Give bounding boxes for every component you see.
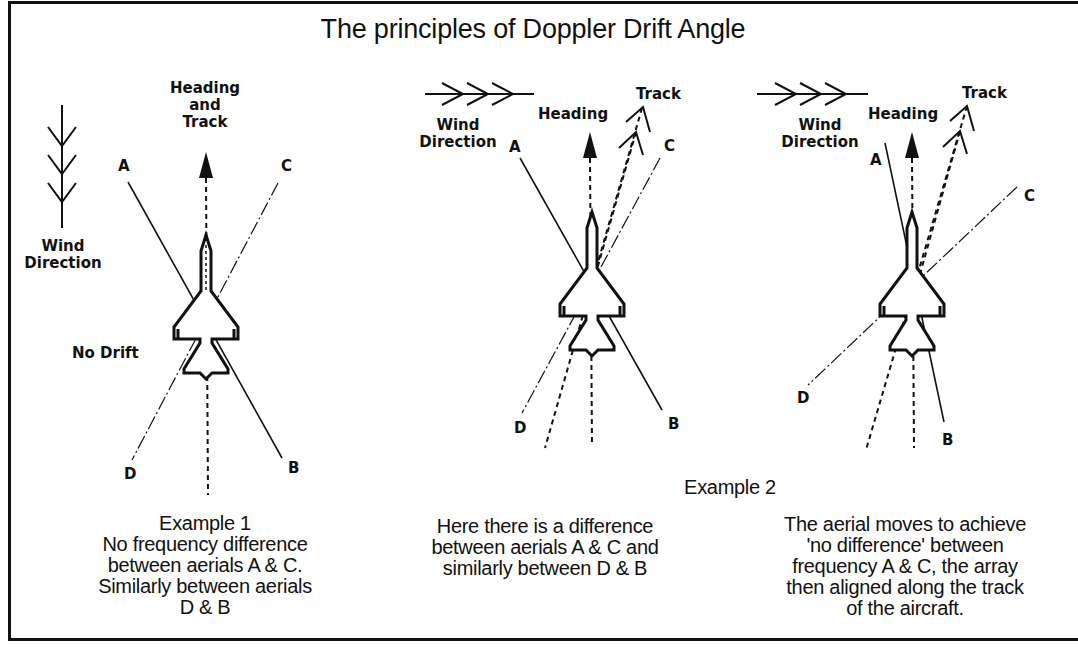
aircraft-icon	[174, 235, 238, 379]
wind-direction-icon	[425, 83, 534, 105]
label-wind-direction: Wind Direction	[780, 117, 860, 151]
caption-example1: No frequency difference between aerials …	[40, 534, 370, 618]
label-heading-and-track: Heading and Track	[160, 80, 250, 131]
aircraft-icon	[560, 212, 624, 356]
label-wind-direction: Wind Direction	[418, 117, 498, 151]
caption-example1-title: Example 1	[40, 513, 370, 534]
wind-direction-icon	[48, 105, 76, 228]
label-aerial-c: C	[1024, 188, 1035, 205]
label-aerial-a: A	[509, 139, 521, 156]
label-aerial-d: D	[797, 390, 809, 407]
caption-example2b: The aerial moves to achieve 'no differen…	[750, 514, 1060, 619]
caption-example2-title: Example 2	[600, 477, 860, 498]
example1-graphics	[48, 105, 282, 495]
label-heading: Heading	[868, 106, 938, 123]
label-aerial-b: B	[942, 432, 953, 449]
heading-arrow-icon	[583, 132, 597, 158]
label-wind-direction: Wind Direction	[18, 238, 108, 272]
label-aerial-a: A	[118, 158, 130, 175]
label-heading: Heading	[538, 106, 608, 123]
label-track: Track	[636, 86, 681, 103]
label-track: Track	[962, 85, 1007, 102]
label-aerial-a: A	[870, 152, 882, 169]
aircraft-icon	[880, 212, 944, 356]
heading-arrow-icon	[199, 152, 213, 178]
heading-arrow-icon	[905, 132, 919, 158]
track-arrow-icon	[619, 107, 650, 155]
label-aerial-b: B	[288, 460, 299, 477]
label-no-drift: No Drift	[72, 345, 139, 362]
track-arrow-icon	[943, 106, 974, 154]
label-aerial-d: D	[514, 420, 526, 437]
label-aerial-d: D	[124, 466, 136, 483]
diagram-title: The principles of Doppler Drift Angle	[0, 14, 1066, 45]
wind-direction-icon	[757, 83, 868, 105]
label-aerial-c: C	[664, 138, 675, 155]
caption-example2a: Here there is a difference between aeria…	[400, 516, 690, 579]
label-aerial-c: C	[281, 158, 292, 175]
label-aerial-b: B	[668, 416, 679, 433]
